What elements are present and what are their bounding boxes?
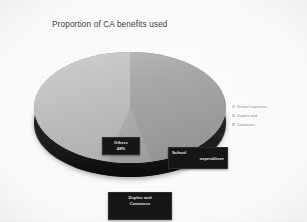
data-label-others-line2: 48% [106, 146, 136, 152]
legend-item-commons[interactable]: Commons [232, 120, 302, 129]
chart-title: Proportion of CA benefits used [52, 20, 168, 29]
slide-canvas: Proportion of CA benefits used Others 48… [0, 0, 307, 222]
chart-legend: School expenses Duplex and Commons [232, 102, 302, 129]
data-label-duplex-line2: Commons [112, 201, 168, 207]
legend-swatch-icon [232, 114, 235, 117]
legend-item-duplex-and[interactable]: Duplex and [232, 111, 302, 120]
data-label-duplex-and-commons: Duplex and Commons [108, 192, 172, 220]
pie-chart: Others 48% School expenditure Duplex and… [34, 52, 226, 177]
legend-label: Commons [237, 122, 255, 127]
legend-swatch-icon [232, 123, 235, 126]
legend-label: School expenses [237, 104, 267, 109]
data-label-school-line2: expenditure [172, 156, 224, 162]
legend-swatch-icon [232, 105, 235, 108]
data-label-others: Others 48% [102, 137, 140, 155]
legend-label: Duplex and [237, 113, 257, 118]
data-label-school-expenditure: School expenditure [168, 147, 228, 169]
legend-item-school-expenses[interactable]: School expenses [232, 102, 302, 111]
